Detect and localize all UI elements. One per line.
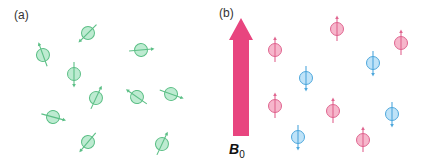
spin-up-icon (395, 30, 408, 56)
spin-down-icon (386, 102, 399, 128)
spin-down-icon (292, 125, 305, 151)
magnetic-field-arrow-icon (229, 18, 253, 136)
spin-up-icon (269, 37, 282, 63)
spin-up-icon (357, 127, 370, 153)
spin-up-icon (327, 98, 340, 124)
random-spin-icon (74, 129, 100, 157)
random-spin-icon (74, 20, 101, 47)
aligned-spins-group (269, 16, 408, 153)
spin-down-icon (367, 51, 380, 77)
random-spin-icon (32, 40, 53, 68)
random-spins-group (32, 20, 186, 158)
random-spin-icon (68, 62, 81, 88)
random-spin-icon (128, 42, 155, 57)
spin-up-icon (331, 16, 344, 42)
random-spin-icon (151, 129, 174, 158)
random-spin-icon (85, 83, 108, 112)
random-spin-icon (158, 84, 186, 105)
field-subscript: 0 (239, 149, 245, 160)
random-spin-icon (40, 108, 68, 127)
spin-diagram (0, 0, 427, 164)
spin-down-icon (300, 66, 313, 92)
spin-up-icon (269, 93, 282, 119)
field-symbol: B (229, 141, 239, 157)
random-spin-icon (122, 84, 150, 109)
field-label: B0 (229, 141, 245, 160)
